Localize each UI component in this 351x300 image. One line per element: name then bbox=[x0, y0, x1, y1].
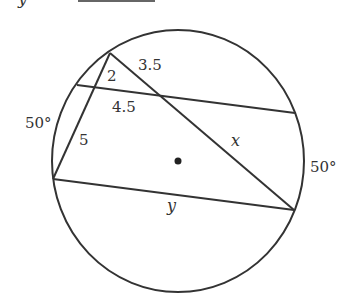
circle-chord-diagram: y 3.5 2 4.5 5 50° 50° x y bbox=[0, 0, 351, 300]
label-2: 2 bbox=[107, 67, 117, 85]
chord-x bbox=[110, 53, 294, 210]
label-x: x bbox=[231, 131, 240, 150]
prompt-variable: y bbox=[17, 0, 28, 8]
center-point bbox=[175, 158, 182, 165]
label-4-5: 4.5 bbox=[112, 98, 136, 116]
answer-prompt: y bbox=[17, 0, 155, 8]
label-arc-left: 50° bbox=[25, 114, 52, 132]
chord-left bbox=[53, 53, 110, 179]
label-3-5: 3.5 bbox=[138, 56, 162, 74]
label-arc-right: 50° bbox=[310, 158, 337, 176]
chord-upper-parallel bbox=[77, 85, 295, 113]
label-y: y bbox=[166, 196, 177, 215]
label-5: 5 bbox=[79, 131, 89, 149]
